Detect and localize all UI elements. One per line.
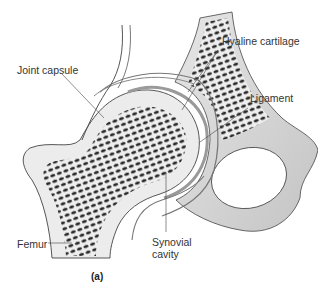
label-synovial-cavity-line1: Synovial bbox=[152, 236, 192, 248]
label-femur: Femur bbox=[17, 238, 47, 250]
label-synovial-cavity-line2: cavity bbox=[152, 248, 179, 260]
label-hyaline-cartilage: Hyaline cartilage bbox=[222, 35, 300, 47]
hip-joint-diagram: Joint capsule Hyaline cartilage Ligament… bbox=[0, 0, 318, 290]
label-ligament: Ligament bbox=[250, 92, 293, 104]
panel-label: (a) bbox=[91, 271, 103, 282]
leader-joint-capsule bbox=[62, 74, 104, 118]
label-joint-capsule: Joint capsule bbox=[17, 64, 78, 76]
